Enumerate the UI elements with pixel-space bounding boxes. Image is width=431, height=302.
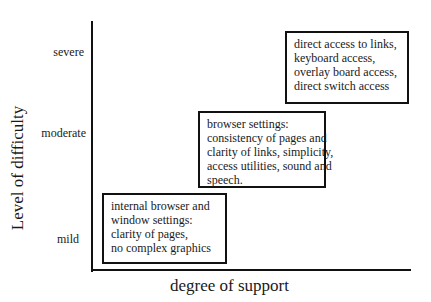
box-line: speech. bbox=[207, 173, 317, 187]
box-line: access utilities, sound and bbox=[207, 159, 317, 173]
y-axis-line bbox=[91, 21, 93, 272]
box-line: clarity of pages, bbox=[111, 227, 218, 241]
x-axis-label: degree of support bbox=[170, 276, 289, 296]
y-tick-moderate: moderate bbox=[6, 126, 86, 141]
x-axis-line bbox=[91, 269, 411, 271]
box-line: direct switch access bbox=[294, 79, 400, 93]
box-line: overlay board access, bbox=[294, 65, 400, 79]
y-tick-mild: mild bbox=[0, 232, 79, 247]
box-line: browser settings: bbox=[207, 117, 317, 131]
box-line: direct access to links, bbox=[294, 37, 400, 51]
box-line: keyboard access, bbox=[294, 51, 400, 65]
severe-support-box: direct access to links, keyboard access,… bbox=[285, 31, 409, 104]
box-line: no complex graphics bbox=[111, 241, 218, 255]
box-line: clarity of links, simplicity, bbox=[207, 145, 317, 159]
box-line: window settings: bbox=[111, 213, 218, 227]
moderate-support-box: browser settings: consistency of pages a… bbox=[198, 111, 326, 188]
y-tick-severe: severe bbox=[4, 45, 84, 60]
box-line: consistency of pages and bbox=[207, 131, 317, 145]
box-line: internal browser and bbox=[111, 199, 218, 213]
mild-support-box: internal browser and window settings: cl… bbox=[102, 193, 227, 264]
